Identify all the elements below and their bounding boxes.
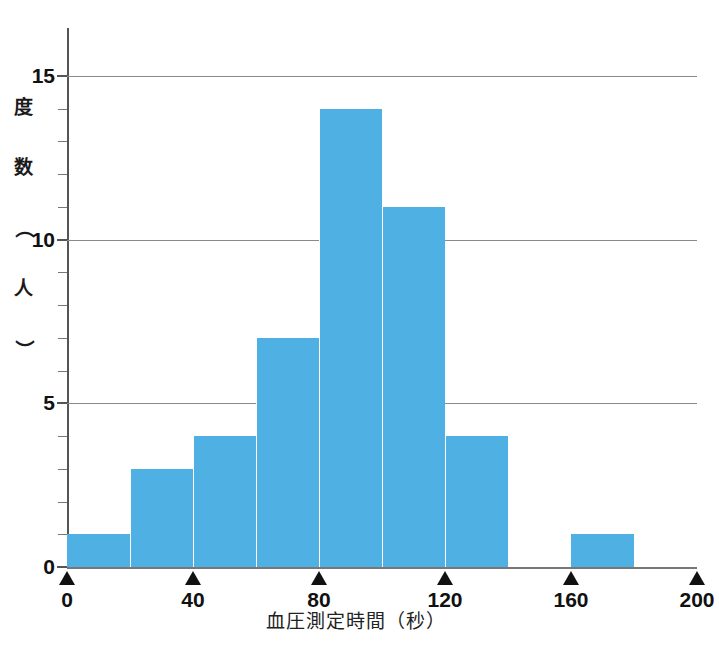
y-tick-major (57, 75, 67, 77)
y-tick-minor (58, 469, 67, 470)
histogram-bar (67, 534, 130, 567)
y-tick-major (57, 566, 67, 568)
x-axis-title: 血圧測定時間（秒） (0, 606, 712, 633)
x-axis-line (67, 567, 697, 569)
y-tick-label: 15 (9, 65, 55, 86)
x-tick-marker-triangle (59, 571, 75, 585)
y-axis-title-char-1: 数 (8, 158, 38, 178)
x-tick-marker-triangle (689, 571, 705, 585)
y-tick-major (57, 402, 67, 404)
y-axis-line (67, 28, 69, 569)
y-tick-minor (58, 436, 67, 437)
histogram-bar (319, 109, 382, 567)
y-tick-minor (58, 272, 67, 273)
x-tick-marker-triangle (185, 571, 201, 585)
histogram-bar (382, 207, 445, 567)
histogram-bar (571, 534, 634, 567)
histogram-bar (256, 338, 319, 567)
y-tick-minor (58, 502, 67, 503)
x-tick-marker-triangle (563, 571, 579, 585)
y-tick-label: 0 (9, 556, 55, 577)
x-tick-marker-triangle (311, 571, 327, 585)
y-tick-minor (58, 141, 67, 142)
y-axis-title-char-3: 人 (8, 279, 38, 299)
y-tick-minor (58, 174, 67, 175)
y-tick-minor (58, 371, 67, 372)
histogram-bar (193, 436, 256, 567)
y-axis-title-char-0: 度 (8, 98, 38, 118)
y-axis-title-char-4: ） (13, 335, 33, 365)
histogram-bar (130, 469, 193, 567)
gridline (67, 76, 697, 77)
y-tick-minor (58, 109, 67, 110)
y-tick-minor (58, 305, 67, 306)
y-tick-major (57, 239, 67, 241)
x-tick-marker-triangle (437, 571, 453, 585)
y-tick-minor (58, 338, 67, 339)
y-tick-label: 5 (9, 392, 55, 413)
y-tick-minor (58, 207, 67, 208)
y-tick-minor (58, 534, 67, 535)
plot-area (67, 28, 697, 568)
histogram-bar (445, 436, 508, 567)
y-tick-label: 10 (9, 229, 55, 250)
